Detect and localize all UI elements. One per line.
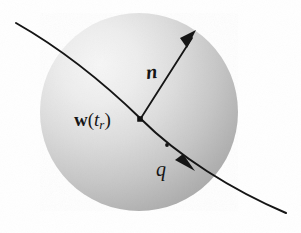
diagram-canvas (0, 0, 301, 233)
label-retarded-position: w(tr) (74, 110, 111, 132)
label-charge-q: q (156, 159, 166, 179)
label-w-vector: w (74, 109, 88, 130)
trajectory-tick-dot (165, 143, 169, 147)
label-w-close-paren: ) (104, 109, 110, 130)
retarded-position-dot (137, 116, 143, 122)
figure-container: w(tr) n q (0, 0, 301, 233)
label-vector-n: n (145, 61, 158, 82)
sphere-grain-texture (40, 13, 238, 211)
